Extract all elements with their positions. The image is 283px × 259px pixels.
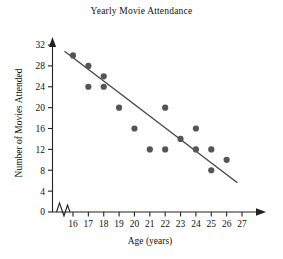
- data-point: [101, 84, 107, 90]
- data-point: [147, 146, 153, 152]
- y-tick-label: 20: [36, 103, 46, 113]
- y-tick-label: 4: [40, 187, 45, 197]
- x-tick-label: 22: [160, 219, 170, 229]
- data-points-layer: [70, 52, 230, 173]
- data-point: [177, 136, 183, 142]
- data-point: [162, 146, 168, 152]
- x-tick-label: 25: [207, 219, 217, 229]
- data-point: [224, 157, 230, 163]
- data-point: [116, 105, 122, 111]
- axis-break-icon: [57, 203, 71, 216]
- data-point: [193, 146, 199, 152]
- y-tick-label: 8: [40, 166, 45, 176]
- data-point: [85, 84, 91, 90]
- x-tick-label: 19: [114, 219, 124, 229]
- x-tick-label: 27: [237, 219, 247, 229]
- x-tick-label: 18: [99, 219, 109, 229]
- x-tick-label: 17: [84, 219, 94, 229]
- x-tick-label: 26: [222, 219, 232, 229]
- x-axis-arrow: [256, 208, 266, 216]
- x-tick-label: 20: [130, 219, 140, 229]
- data-point: [70, 52, 76, 58]
- trend-line: [65, 51, 238, 183]
- y-tick-label: 0: [40, 207, 45, 217]
- data-point: [208, 146, 214, 152]
- x-tick-label: 24: [191, 219, 201, 229]
- plot-area: 048121620242832161718192021222324252627: [0, 0, 283, 259]
- data-point: [101, 73, 107, 79]
- y-tick-label: 12: [36, 145, 46, 155]
- data-point: [208, 167, 214, 173]
- y-tick-label: 28: [36, 61, 46, 71]
- tick-labels-layer: 048121620242832161718192021222324252627: [36, 40, 248, 229]
- x-tick-label: 21: [145, 219, 155, 229]
- y-tick-label: 16: [36, 124, 46, 134]
- y-tick-label: 24: [36, 82, 46, 92]
- data-point: [85, 63, 91, 69]
- chart-container: Yearly Movie Attendance Number of Movies…: [0, 0, 283, 259]
- data-point: [162, 105, 168, 111]
- x-tick-label: 16: [68, 219, 78, 229]
- y-tick-label: 32: [36, 40, 46, 50]
- data-point: [193, 125, 199, 131]
- trend-line-segment: [65, 51, 238, 183]
- data-point: [131, 125, 137, 131]
- x-tick-label: 23: [176, 219, 186, 229]
